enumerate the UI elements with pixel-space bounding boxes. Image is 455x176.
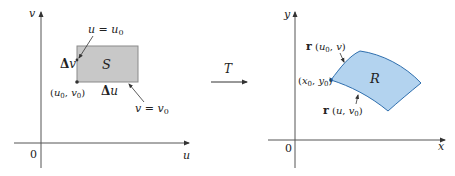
origin-label: 0 <box>285 142 292 155</box>
curve-upper-label: r (u0, v) <box>306 40 346 54</box>
transform-label: T <box>224 62 233 76</box>
xy-plane: y x 0 R (x0, y0) r (u0, v) r (u, v0) <box>268 8 445 168</box>
delta-u-label: Δu <box>101 84 118 98</box>
transform-t: T <box>211 62 247 82</box>
corner-point-label: (u0, v0) <box>50 87 85 100</box>
corner-point-dot <box>75 80 79 84</box>
curve-upper-pointer <box>340 53 344 62</box>
v-axis-label: v <box>29 7 36 20</box>
region-s-label: S <box>102 57 111 72</box>
change-of-variables-diagram: v u 0 S Δv Δu (u0, v0) u = u0 v = v0 T <box>0 0 455 176</box>
curve-lower-pointer <box>356 95 358 104</box>
v-equals-v0-label: v = v0 <box>135 102 169 116</box>
origin-label: 0 <box>30 148 37 161</box>
delta-v-label: Δv <box>60 57 76 71</box>
y-axis-label: y <box>283 8 291 21</box>
u-axis-label: u <box>183 149 190 162</box>
x-axis-label: x <box>438 140 445 153</box>
uv-plane: v u 0 S Δv Δu (u0, v0) u = u0 v = v0 <box>14 7 190 168</box>
u-equals-u0-label: u = u0 <box>88 23 124 37</box>
region-r-label: R <box>369 71 380 86</box>
point-x0-y0-label: (x0, y0) <box>298 75 333 88</box>
v-equals-v0-pointer <box>129 84 144 102</box>
curve-lower-label: r (u, v0) <box>323 104 363 118</box>
